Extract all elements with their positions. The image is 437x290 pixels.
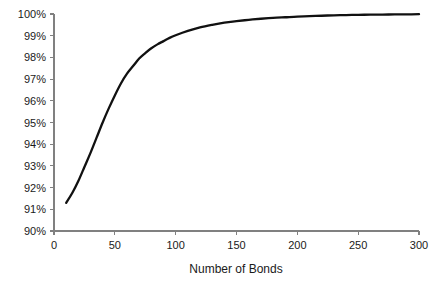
x-tick-marks: [54, 231, 419, 235]
y-tick-label: 92%: [24, 182, 46, 194]
y-tick-label: 99%: [24, 30, 46, 42]
y-tick-label: 95%: [24, 117, 46, 129]
chart-container: 90%91%92%93%94%95%96%97%98%99%100% 05010…: [0, 0, 437, 290]
y-tick-label: 93%: [24, 160, 46, 172]
x-tick-label: 100: [166, 239, 184, 251]
x-tick-label: 300: [410, 239, 428, 251]
x-tick-label: 250: [349, 239, 367, 251]
y-tick-marks: [50, 14, 54, 231]
x-axis-title: Number of Bonds: [189, 262, 282, 276]
y-tick-label: 94%: [24, 138, 46, 150]
y-tick-label: 98%: [24, 51, 46, 63]
x-tick-label: 50: [109, 239, 121, 251]
x-tick-labels: 050100150200250300: [51, 239, 428, 251]
y-tick-label: 91%: [24, 203, 46, 215]
y-tick-label: 97%: [24, 73, 46, 85]
x-tick-label: 150: [227, 239, 245, 251]
y-tick-label: 96%: [24, 95, 46, 107]
x-axis-group: 050100150200250300: [51, 231, 428, 251]
y-tick-label: 100%: [18, 8, 46, 20]
y-tick-label: 90%: [24, 225, 46, 237]
x-tick-label: 0: [51, 239, 57, 251]
y-axis-group: 90%91%92%93%94%95%96%97%98%99%100%: [18, 8, 54, 237]
line-chart: 90%91%92%93%94%95%96%97%98%99%100% 05010…: [0, 0, 437, 290]
x-tick-label: 200: [288, 239, 306, 251]
data-series-group: [66, 14, 419, 203]
y-tick-labels: 90%91%92%93%94%95%96%97%98%99%100%: [18, 8, 46, 237]
series-line: [66, 14, 419, 203]
